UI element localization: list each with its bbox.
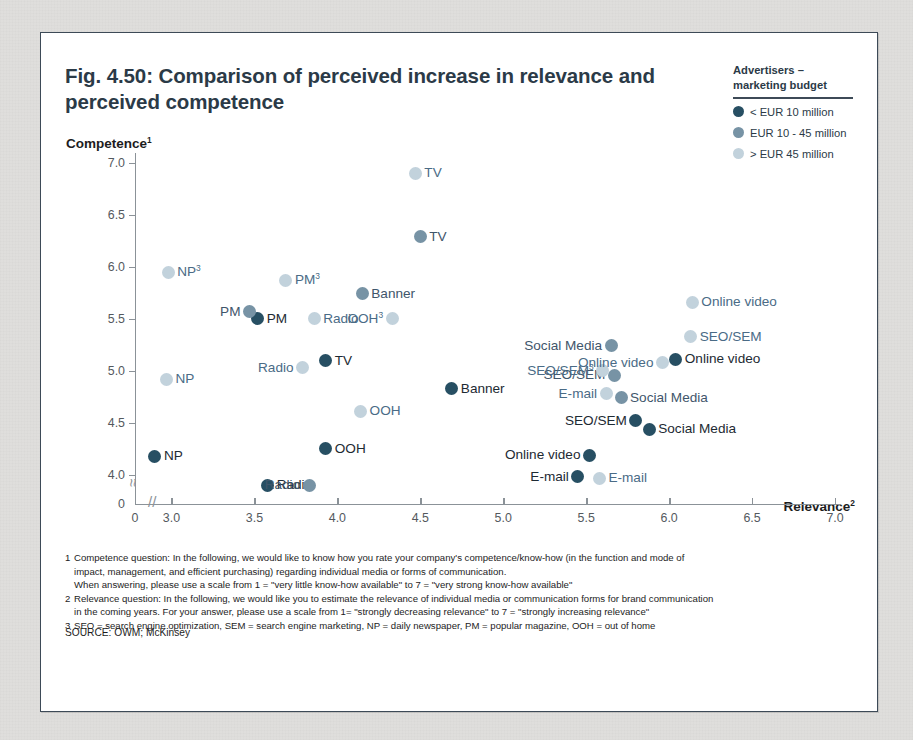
data-point[interactable] [162,266,175,279]
x-tick-label: 6.0 [646,511,692,525]
y-tick-mark [129,215,136,216]
data-point[interactable] [571,470,584,483]
data-point[interactable] [409,167,422,180]
y-tick-mark [129,423,136,424]
x-tick-mark [254,498,255,505]
x-tick-mark [503,498,504,505]
title-text: Fig. 4.50: Comparison of perceived incre… [65,64,655,113]
x-axis-break-icon: // [148,493,156,510]
data-point[interactable] [593,472,606,485]
legend-title-line2: marketing budget [733,78,868,93]
x-axis-line [135,504,841,505]
y-tick-label: 4.5 [87,416,125,430]
data-point-label: OOH3 [347,312,383,326]
data-point[interactable] [308,312,321,325]
data-point[interactable] [296,361,309,374]
legend-item-1[interactable]: EUR 10 - 45 million [733,127,868,139]
data-point-label: NP3 [177,265,201,279]
legend-swatch-icon [733,127,744,138]
x-tick-mark [337,498,338,505]
data-point-label: TV [335,354,352,368]
data-point[interactable] [684,330,697,343]
legend-divider [733,97,853,99]
footnote-number: 1 [65,551,74,565]
data-point-label: Online video [701,296,777,310]
data-point[interactable] [600,387,613,400]
x-tick-label: 7.0 [812,511,858,525]
label-superscript: 3 [378,310,383,320]
data-point-label: Social Media [524,339,602,353]
legend-title: Advertisers – marketing budget [733,63,868,92]
page-background: Fig. 4.50: Comparison of perceived incre… [0,0,913,740]
y-tick-mark [129,319,136,320]
x-tick-label: 4.0 [314,511,360,525]
y-tick-mark [129,371,136,372]
data-point[interactable] [669,353,682,366]
footnotes: 1Competence question: In the following, … [65,551,855,633]
data-point[interactable] [148,450,161,463]
data-point-label: Online video [685,353,761,367]
data-point-label: TV [429,230,446,244]
data-point[interactable] [319,442,332,455]
data-point[interactable] [583,449,596,462]
data-point[interactable] [608,369,621,382]
y-axis-break-icon: ≈ [125,478,142,486]
data-point-label: E-mail [608,471,647,485]
source-line: SOURCE: OWM; McKinsey [65,627,190,638]
data-point[interactable] [686,296,699,309]
data-point-label: PM [267,312,287,326]
data-point-label: PM3 [295,274,320,288]
y-axis-title-superscript: 1 [147,135,152,145]
x-axis-title-superscript: 2 [850,498,855,508]
x-tick-mark [669,498,670,505]
x-tick-mark [586,498,587,505]
data-point-label: NP [164,449,183,463]
data-point[interactable] [279,274,292,287]
data-point[interactable] [656,356,669,369]
label-superscript: 3 [196,263,201,273]
y-tick-label: 6.5 [87,208,125,222]
legend-item-label: < EUR 10 million [750,106,834,118]
label-superscript: 3 [315,271,320,281]
data-point[interactable] [354,405,367,418]
y-tick-label: 7.0 [87,156,125,170]
data-point-label: E-mail [530,470,569,484]
data-point[interactable] [356,287,369,300]
data-point-label: Online video [578,356,654,370]
y-tick-label: 5.0 [87,364,125,378]
y-tick-mark [129,163,136,164]
data-point[interactable] [414,230,427,243]
x-tick-label: 3.5 [231,511,277,525]
page-title: Fig. 4.50: Comparison of perceived incre… [65,63,705,115]
x-tick-label: 5.0 [480,511,526,525]
x-tick-label: 5.5 [563,511,609,525]
data-point-label: SEO/SEM [700,330,762,344]
data-point-label: OOH [370,405,401,419]
data-point[interactable] [386,312,399,325]
data-point-label: SEO/SEM [565,414,627,428]
y-tick-mark [129,475,136,476]
legend-title-line1: Advertisers – [733,63,868,78]
data-point-label: Radio [258,361,294,375]
data-point[interactable] [303,479,316,492]
x-tick-label: 3.0 [148,511,194,525]
data-point[interactable] [319,354,332,367]
footnote-number: 2 [65,592,74,606]
scatter-plot: 04.04.55.05.56.06.57.003.03.54.04.55.05.… [101,153,841,523]
data-point-label: OOH [335,442,366,456]
legend-item-0[interactable]: < EUR 10 million [733,106,868,118]
data-point[interactable] [643,423,656,436]
y-tick-label: 4.0 [87,468,125,482]
footnote-text: in the coming years. For your answer, pl… [74,605,855,619]
data-point[interactable] [160,373,173,386]
data-point[interactable] [629,414,642,427]
data-point-label: TV [424,167,441,181]
data-point[interactable] [605,339,618,352]
data-point-label: Online video [505,448,581,462]
data-point[interactable] [615,391,628,404]
x-tick-mark [752,498,753,505]
legend-item-label: EUR 10 - 45 million [750,127,846,139]
x-tick-label: 4.5 [397,511,443,525]
data-point-label: Social Media [630,391,708,405]
data-point[interactable] [445,382,458,395]
